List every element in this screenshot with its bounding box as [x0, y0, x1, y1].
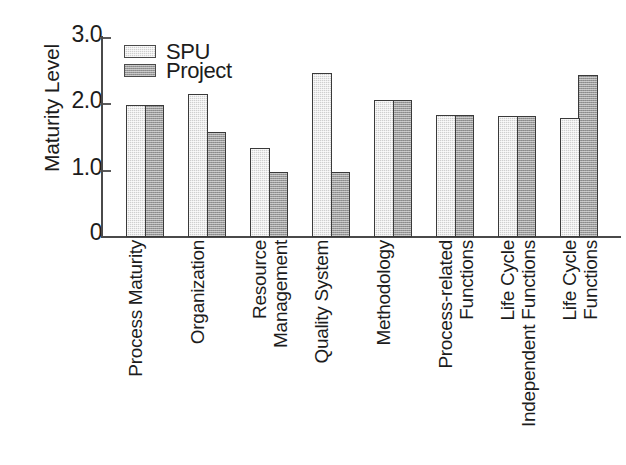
y-tick-label-1: 1.0: [50, 154, 102, 181]
bar-project-6: [516, 116, 536, 237]
x-axis-labels: Process MaturityOrganizationResourceMana…: [102, 240, 622, 465]
bar-project-0: [144, 105, 164, 237]
x-label-group-7: Life CycleFunctions: [560, 240, 600, 465]
x-label-line: Resource: [250, 240, 270, 465]
x-label-group-0: Process Maturity: [126, 240, 166, 465]
x-label-line: Functions: [457, 240, 477, 465]
bar-spu-0: [126, 105, 146, 237]
x-label-line: Management: [271, 240, 291, 465]
bar-spu-3: [312, 73, 332, 237]
bar-spu-1: [188, 94, 208, 237]
x-label-line: Process-related: [436, 240, 456, 465]
x-label-group-2: ResourceManagement: [250, 240, 290, 465]
x-label-line: Methodology: [374, 240, 394, 465]
y-tick-label-2: 2.0: [50, 87, 102, 114]
x-label-line: Life Cycle: [498, 240, 518, 465]
bar-spu-7: [560, 118, 580, 237]
bar-spu-5: [436, 115, 456, 237]
x-label-group-5: Process-relatedFunctions: [436, 240, 476, 465]
x-label-line: Organization: [188, 240, 208, 465]
bar-project-1: [206, 132, 226, 237]
x-label-group-6: Life CycleIndependent Functions: [498, 240, 538, 465]
plot-area: [102, 36, 622, 237]
x-label-line: Independent Functions: [519, 240, 539, 465]
bar-project-7: [578, 75, 598, 237]
x-label-line: Functions: [581, 240, 601, 465]
x-label-group-4: Methodology: [374, 240, 414, 465]
x-label-line: Life Cycle: [560, 240, 580, 465]
bar-spu-6: [498, 116, 518, 237]
bar-project-2: [268, 172, 288, 237]
x-label-line: Quality System: [312, 240, 332, 465]
y-tick-label-3: 3.0: [50, 21, 102, 48]
bar-project-4: [392, 100, 412, 237]
x-label-group-1: Organization: [188, 240, 228, 465]
bar-project-3: [330, 172, 350, 237]
bar-spu-4: [374, 100, 394, 237]
x-label-group-3: Quality System: [312, 240, 352, 465]
bar-project-5: [454, 115, 474, 237]
bar-chart: Maturity Level 3.0 2.0 1.0 0 SPU Project…: [0, 0, 626, 465]
x-label-line: Process Maturity: [126, 240, 146, 465]
y-tick-label-0: 0: [50, 219, 102, 246]
bar-spu-2: [250, 148, 270, 237]
